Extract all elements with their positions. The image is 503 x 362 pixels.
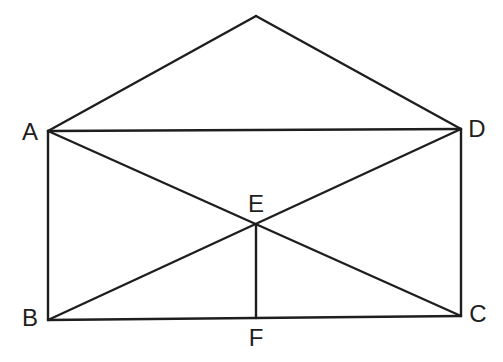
diagram-edges <box>48 16 461 320</box>
label-D: D <box>468 115 485 142</box>
label-A: A <box>22 118 38 145</box>
geometry-diagram: A D B C E F <box>0 0 503 362</box>
segment-A-apex <box>48 16 256 131</box>
label-B: B <box>22 304 38 331</box>
segment-A-D <box>48 129 461 131</box>
label-C: C <box>469 300 486 327</box>
label-E: E <box>248 190 264 217</box>
segment-B-C <box>48 316 461 320</box>
label-F: F <box>249 324 264 351</box>
segment-apex-D <box>256 16 461 129</box>
